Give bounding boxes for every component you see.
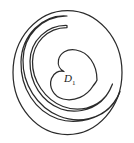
- figure-container: D 1: [0, 0, 134, 143]
- region-label-symbol: D: [63, 72, 72, 84]
- spiral-diagram-svg: D 1: [0, 0, 134, 143]
- region-label-subscript: 1: [72, 79, 76, 87]
